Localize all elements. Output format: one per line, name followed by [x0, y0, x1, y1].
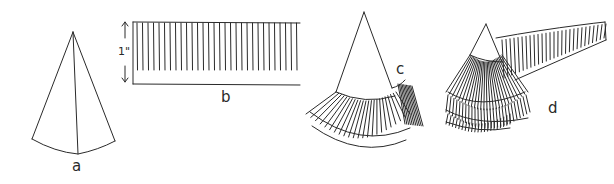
panel-c-cone-fringe	[306, 12, 423, 147]
label-c: c	[396, 62, 404, 77]
illustration-canvas	[0, 0, 614, 184]
dimension-label: 1"	[118, 46, 130, 57]
label-b: b	[221, 90, 231, 105]
panel-a-cone	[32, 32, 115, 154]
label-d: d	[548, 101, 558, 116]
label-a: a	[72, 159, 81, 174]
panel-d-layered	[446, 22, 606, 132]
panel-b-strip	[122, 22, 300, 85]
